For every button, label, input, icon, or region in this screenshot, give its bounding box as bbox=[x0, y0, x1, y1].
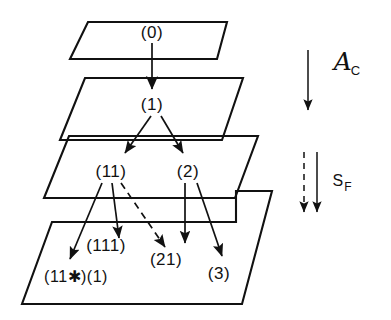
node-label-2: (2) bbox=[177, 162, 199, 182]
node-label-3: (3) bbox=[208, 264, 230, 284]
node-label-111: (111) bbox=[86, 236, 126, 256]
operator-label-s-f: SF bbox=[332, 172, 351, 194]
arrow-11-to-111 bbox=[112, 183, 119, 238]
operator-a-base: A bbox=[334, 47, 352, 76]
arrow-2-to-3 bbox=[197, 183, 222, 256]
node-label-1: (1) bbox=[141, 95, 163, 115]
plane-level-2 bbox=[44, 136, 258, 198]
node-label-11: (11) bbox=[96, 162, 127, 182]
node-label-0: (0) bbox=[141, 23, 163, 43]
operator-s-subscript: F bbox=[344, 180, 351, 194]
node-label-21: (21) bbox=[150, 250, 182, 270]
arrow-1-to-2 bbox=[161, 116, 183, 153]
node-label-11-star-1: (11✱)(1) bbox=[44, 269, 108, 285]
arrow-11-to-21 bbox=[121, 183, 165, 247]
diagram-canvas: (0) (1) (11) (2) (111) (21) (3) (11✱)(1)… bbox=[0, 0, 391, 320]
operator-label-a-c: AC bbox=[334, 47, 360, 78]
operator-a-subscript: C bbox=[351, 62, 360, 77]
plane-level-3 bbox=[22, 191, 272, 304]
arrow-1-to-11 bbox=[125, 116, 151, 153]
operator-s-base: S bbox=[332, 172, 343, 189]
